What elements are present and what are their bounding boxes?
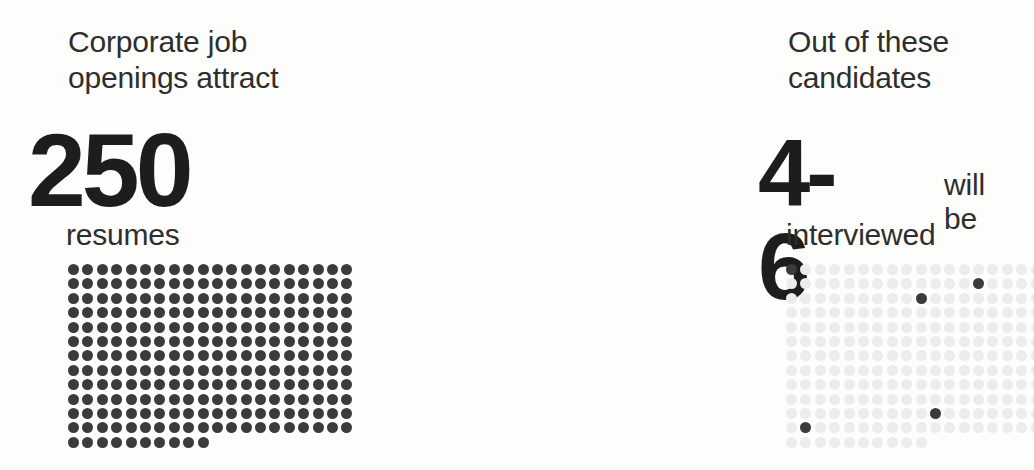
dot bbox=[68, 264, 79, 275]
dot bbox=[183, 437, 194, 448]
dot bbox=[111, 437, 122, 448]
dot bbox=[212, 293, 223, 304]
dot bbox=[198, 264, 209, 275]
dot bbox=[111, 379, 122, 390]
dot bbox=[298, 350, 309, 361]
dot bbox=[97, 322, 108, 333]
dot bbox=[327, 278, 338, 289]
dot bbox=[126, 336, 137, 347]
dot bbox=[327, 408, 338, 419]
dot bbox=[284, 264, 295, 275]
dot bbox=[154, 322, 165, 333]
dot bbox=[241, 350, 252, 361]
dot bbox=[68, 278, 79, 289]
dot bbox=[255, 408, 266, 419]
dot bbox=[269, 322, 280, 333]
dot bbox=[241, 394, 252, 405]
dot bbox=[97, 307, 108, 318]
dot bbox=[298, 322, 309, 333]
dot bbox=[198, 379, 209, 390]
dot bbox=[298, 379, 309, 390]
panel-offer: Only 1 will get a job offer bbox=[708, 0, 1034, 470]
dot bbox=[126, 322, 137, 333]
dot bbox=[82, 307, 93, 318]
dot bbox=[97, 278, 108, 289]
dot bbox=[97, 293, 108, 304]
dot bbox=[341, 394, 352, 405]
dot bbox=[126, 394, 137, 405]
dot bbox=[111, 307, 122, 318]
dot bbox=[341, 293, 352, 304]
dot bbox=[97, 408, 108, 419]
dot bbox=[154, 408, 165, 419]
dot bbox=[183, 422, 194, 433]
dot bbox=[327, 422, 338, 433]
dot bbox=[241, 307, 252, 318]
dot bbox=[183, 264, 194, 275]
dot bbox=[183, 394, 194, 405]
dot bbox=[82, 264, 93, 275]
dot bbox=[111, 408, 122, 419]
dot bbox=[154, 293, 165, 304]
dot bbox=[154, 350, 165, 361]
dot bbox=[68, 379, 79, 390]
dot bbox=[97, 264, 108, 275]
dot bbox=[154, 437, 165, 448]
dot bbox=[269, 350, 280, 361]
dot bbox=[341, 307, 352, 318]
dot bbox=[269, 365, 280, 376]
dot bbox=[313, 365, 324, 376]
dot bbox=[82, 278, 93, 289]
dot bbox=[140, 437, 151, 448]
dot bbox=[255, 293, 266, 304]
dot bbox=[284, 379, 295, 390]
dot bbox=[284, 437, 295, 448]
dot bbox=[140, 336, 151, 347]
dot bbox=[269, 307, 280, 318]
dot bbox=[198, 422, 209, 433]
dot bbox=[212, 264, 223, 275]
dot bbox=[313, 394, 324, 405]
dot bbox=[255, 307, 266, 318]
dot bbox=[82, 336, 93, 347]
dot bbox=[154, 422, 165, 433]
dot bbox=[269, 379, 280, 390]
dot bbox=[298, 365, 309, 376]
dot bbox=[111, 394, 122, 405]
dot bbox=[97, 437, 108, 448]
dot bbox=[68, 350, 79, 361]
dot bbox=[126, 379, 137, 390]
dot bbox=[269, 408, 280, 419]
dot bbox=[97, 422, 108, 433]
dot bbox=[212, 322, 223, 333]
dot bbox=[341, 365, 352, 376]
dot bbox=[284, 394, 295, 405]
dot bbox=[82, 394, 93, 405]
dot bbox=[212, 336, 223, 347]
dot bbox=[169, 293, 180, 304]
dot bbox=[241, 422, 252, 433]
dot bbox=[154, 336, 165, 347]
dot bbox=[341, 336, 352, 347]
dot bbox=[341, 278, 352, 289]
dot bbox=[82, 350, 93, 361]
dot bbox=[97, 379, 108, 390]
dot bbox=[68, 365, 79, 376]
dot bbox=[97, 365, 108, 376]
dot bbox=[154, 278, 165, 289]
dot bbox=[97, 336, 108, 347]
dot bbox=[212, 408, 223, 419]
panel-interviewed: Out of these candidates 4-6 will be inte… bbox=[372, 0, 708, 470]
dot bbox=[212, 278, 223, 289]
dot bbox=[198, 336, 209, 347]
dot bbox=[284, 336, 295, 347]
dot bbox=[183, 365, 194, 376]
dot bbox=[68, 307, 79, 318]
dot bbox=[198, 322, 209, 333]
dot bbox=[226, 394, 237, 405]
dot bbox=[169, 350, 180, 361]
dot bbox=[154, 307, 165, 318]
dot bbox=[111, 293, 122, 304]
dot bbox=[226, 336, 237, 347]
dot bbox=[269, 278, 280, 289]
